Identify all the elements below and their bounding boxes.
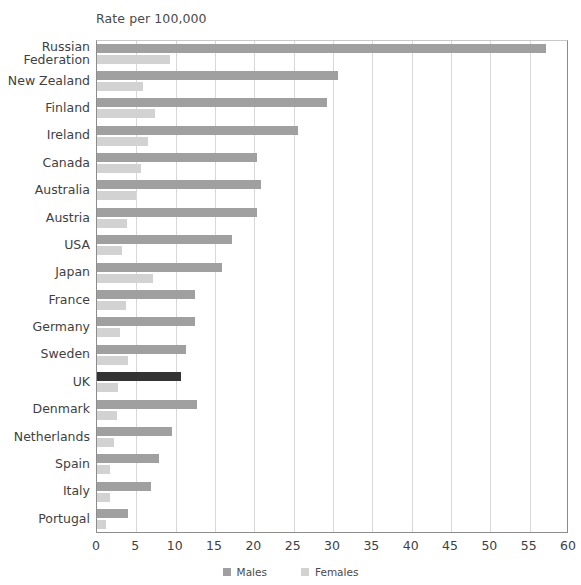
bar-female [97,191,136,200]
legend-label: Females [315,566,358,578]
y-axis-category-labels: Russian FederationNew ZealandFinlandIrel… [0,40,90,533]
y-axis-label: USA [0,238,90,251]
y-axis-label: Portugal [0,512,90,525]
legend-label: Males [237,566,267,578]
y-axis-label: Russian Federation [0,40,90,66]
bar-row-group [97,205,567,232]
plot-area [96,40,568,533]
bar-male [97,98,327,107]
bar-chart: Rate per 100,000 Russian FederationNew Z… [0,0,581,585]
bar-row-group [97,178,567,205]
y-axis-label: Netherlands [0,430,90,443]
bar-row-group [97,315,567,342]
bar-female [97,164,141,173]
bar-female [97,274,153,283]
y-axis-label: Austria [0,211,90,224]
bar-row-group [97,260,567,287]
legend-item: Females [301,566,358,578]
legend-swatch-icon [301,568,309,576]
bar-row-group [97,452,567,479]
x-axis-tick-labels: 051015202530354045505560 [96,538,568,556]
x-axis-tick-label: 10 [167,538,183,553]
bar-row-group [97,96,567,123]
bar-female [97,246,122,255]
bar-row-group [97,342,567,369]
bar-male [97,153,257,162]
bar-row-group [97,151,567,178]
legend-item: Males [223,566,267,578]
bar-row-group [97,424,567,451]
y-axis-label: Denmark [0,402,90,415]
y-axis-label: Spain [0,457,90,470]
bar-male [97,372,181,381]
bar-male [97,509,128,518]
y-axis-label: Australia [0,183,90,196]
chart-title: Rate per 100,000 [96,11,207,26]
bar-female [97,383,118,392]
x-axis-tick-label: 25 [285,538,301,553]
y-axis-label: UK [0,375,90,388]
bar-female [97,301,126,310]
bar-male [97,454,159,463]
legend-swatch-icon [223,568,231,576]
x-axis-tick-label: 55 [521,538,537,553]
bar-rows [97,41,567,532]
bar-male [97,345,186,354]
y-axis-label: Finland [0,101,90,114]
bar-male [97,71,338,80]
y-axis-label: Italy [0,484,90,497]
bar-row-group [97,68,567,95]
y-axis-label: Japan [0,265,90,278]
bar-female [97,109,155,118]
bar-male [97,427,172,436]
bar-male [97,482,151,491]
bar-female [97,493,110,502]
y-axis-label: Ireland [0,128,90,141]
bar-female [97,465,110,474]
y-axis-label: New Zealand [0,74,90,87]
y-axis-label: Sweden [0,347,90,360]
bar-male [97,263,222,272]
x-axis-tick-label: 20 [245,538,261,553]
x-axis-tick-label: 50 [481,538,497,553]
chart-legend: MalesFemales [0,566,581,578]
bar-row-group [97,507,567,534]
bar-male [97,400,197,409]
bar-female [97,438,114,447]
bar-row-group [97,233,567,260]
bar-male [97,208,257,217]
bar-row-group [97,370,567,397]
y-axis-label: France [0,293,90,306]
x-axis-tick-label: 0 [92,538,100,553]
x-axis-tick-label: 15 [206,538,222,553]
bar-female [97,328,120,337]
bar-female [97,137,148,146]
bar-female [97,82,143,91]
bar-male [97,290,195,299]
bar-female [97,219,127,228]
bar-row-group [97,288,567,315]
bar-male [97,126,298,135]
x-axis-tick-label: 45 [442,538,458,553]
bar-male [97,317,195,326]
x-axis-tick-label: 40 [403,538,419,553]
x-axis-tick-label: 30 [324,538,340,553]
bar-female [97,520,106,529]
bar-female [97,411,117,420]
x-axis-tick-label: 60 [560,538,576,553]
bar-male [97,44,546,53]
bar-row-group [97,397,567,424]
y-axis-label: Germany [0,320,90,333]
bar-row-group [97,123,567,150]
bar-male [97,180,261,189]
x-axis-tick-label: 35 [363,538,379,553]
bar-row-group [97,479,567,506]
y-axis-label: Canada [0,156,90,169]
bar-female [97,55,170,64]
bar-male [97,235,232,244]
bar-female [97,356,128,365]
bar-row-group [97,41,567,68]
x-axis-tick-label: 5 [131,538,139,553]
